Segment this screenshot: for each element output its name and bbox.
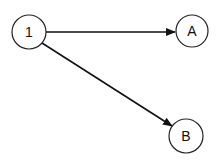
- edge-1-to-b: [42, 43, 172, 126]
- node-1-label: 1: [25, 24, 33, 40]
- node-1: 1: [12, 15, 46, 49]
- node-b-label: B: [181, 128, 190, 144]
- diagram-canvas: 1 A B: [0, 0, 221, 163]
- node-a: A: [176, 15, 208, 47]
- node-a-label: A: [187, 23, 197, 39]
- node-b: B: [169, 119, 203, 153]
